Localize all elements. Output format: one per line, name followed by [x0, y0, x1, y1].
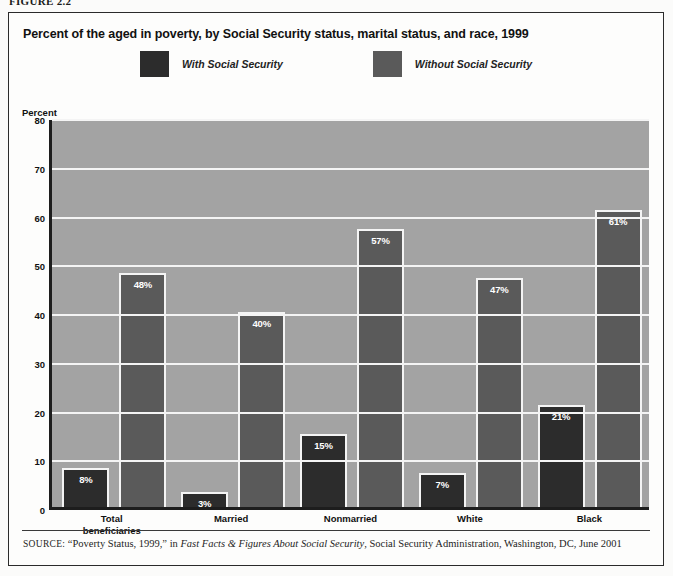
gridline — [52, 314, 649, 316]
bar[interactable]: 21% — [538, 405, 585, 507]
plot-wrapper: 8%48%3%40%15%57%7%47%21%61% 010203040506… — [41, 120, 649, 510]
bar-value-label: 7% — [421, 479, 464, 490]
x-tick-label: White — [410, 513, 529, 537]
bar[interactable]: 3% — [181, 492, 228, 507]
source-publication-title: Fast Facts & Figures About Social Securi… — [180, 538, 364, 549]
y-tick-label: 40 — [34, 310, 45, 321]
y-tick-label: 10 — [34, 456, 45, 467]
bar-value-label: 57% — [359, 235, 402, 246]
bar[interactable]: 8% — [62, 468, 109, 507]
gridline — [52, 460, 649, 462]
legend-label-without-social-security: Without Social Security — [415, 58, 532, 70]
bar-value-label: 48% — [121, 279, 164, 290]
legend-swatch-with-social-security — [140, 51, 169, 77]
x-tick-label: Totalbeneficiaries — [52, 513, 171, 537]
bar-value-label: 47% — [478, 284, 521, 295]
bar-value-label: 40% — [240, 318, 283, 329]
y-tick-label: 80 — [34, 115, 45, 126]
legend-item-with-social-security: With Social Security — [140, 51, 283, 77]
bar[interactable]: 48% — [119, 273, 166, 507]
gridline — [52, 265, 649, 267]
chart-title: Percent of the aged in poverty, by Socia… — [23, 27, 529, 41]
bar-value-label: 8% — [64, 474, 107, 485]
gridline — [52, 363, 649, 365]
source-text-part1: “Poverty Status, 1999,” in — [65, 538, 180, 549]
gridline — [52, 217, 649, 219]
figure-label: FIGURE 2.2 — [9, 0, 71, 8]
chart-legend: With Social Security Without Social Secu… — [140, 51, 532, 77]
x-tick-label: Nonmarried — [291, 513, 410, 537]
x-tick-label: Married — [171, 513, 290, 537]
plot-area: 8%48%3%40%15%57%7%47%21%61% 010203040506… — [49, 120, 649, 510]
y-tick-label: 20 — [34, 407, 45, 418]
figure-frame: Percent of the aged in poverty, by Socia… — [8, 12, 664, 566]
gridline — [52, 412, 649, 414]
source-prefix: SOURCE: — [23, 539, 65, 549]
gridline — [52, 168, 649, 170]
y-tick-label: 30 — [34, 358, 45, 369]
bar[interactable]: 47% — [476, 278, 523, 507]
y-tick-label: 60 — [34, 212, 45, 223]
bar[interactable]: 7% — [419, 473, 466, 507]
y-tick-label: 0 — [40, 505, 45, 516]
legend-item-without-social-security: Without Social Security — [373, 51, 532, 77]
bar[interactable]: 40% — [238, 312, 285, 507]
x-axis-labels: TotalbeneficiariesMarriedNonmarriedWhite… — [52, 513, 649, 537]
legend-label-with-social-security: With Social Security — [182, 58, 283, 70]
bar[interactable]: 61% — [595, 210, 642, 507]
bar-value-label: 3% — [183, 498, 226, 509]
source-note: SOURCE: “Poverty Status, 1999,” in Fast … — [23, 537, 651, 551]
bar[interactable]: 15% — [300, 434, 347, 507]
y-tick-label: 50 — [34, 261, 45, 272]
legend-swatch-without-social-security — [373, 51, 402, 77]
gridline — [52, 119, 649, 121]
footer-divider — [22, 530, 650, 531]
x-tick-label: Black — [530, 513, 649, 537]
bar[interactable]: 57% — [357, 229, 404, 507]
y-tick-label: 70 — [34, 163, 45, 174]
source-text-part2: , Social Security Administration, Washin… — [364, 538, 622, 549]
bar-value-label: 15% — [302, 440, 345, 451]
